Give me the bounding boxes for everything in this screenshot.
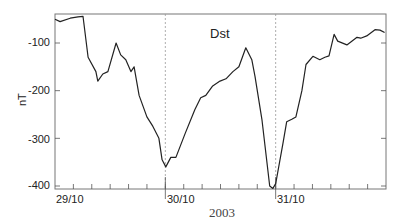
y-tick-label: -100 [14, 36, 50, 48]
dst-chart [0, 0, 402, 222]
x-axis-title: 2003 [209, 205, 235, 221]
chart-title: Dst [210, 26, 230, 41]
dst-line-series [55, 16, 385, 188]
y-tick-label: -300 [14, 133, 50, 145]
y-tick-label: -400 [14, 179, 50, 191]
axis-ticks [55, 43, 386, 189]
day-separator-lines [165, 14, 275, 199]
x-tick-label: 31/10 [277, 193, 305, 205]
x-tick-label: 29/10 [56, 193, 84, 205]
x-tick-label: 30/10 [167, 193, 195, 205]
y-axis-title: nT [16, 93, 28, 106]
